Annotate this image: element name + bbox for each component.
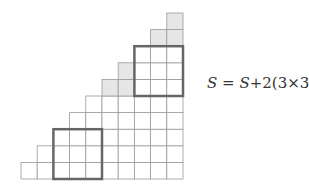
grid-cell: [134, 63, 150, 80]
grid-cell: [151, 162, 167, 179]
grid-cell: [134, 162, 150, 179]
formula-rhs-rest: +2(3×3): [250, 74, 309, 92]
grid-cell: [118, 146, 134, 163]
shaded-cell: [118, 63, 134, 80]
grid-cell: [118, 113, 134, 130]
grid-cell: [151, 113, 167, 130]
shaded-cell: [151, 30, 167, 47]
grid-cell: [134, 46, 150, 63]
grid-cell: [151, 129, 167, 146]
grid-cell: [134, 113, 150, 130]
grid-cell: [151, 63, 167, 80]
grid-cell: [151, 96, 167, 113]
shaded-cell: [102, 79, 118, 96]
grid-cell: [167, 96, 183, 113]
grid-cell: [167, 146, 183, 163]
grid-cell: [86, 96, 102, 113]
grid-cell: [102, 96, 118, 113]
grid-cell: [151, 79, 167, 96]
grid-cell: [70, 162, 86, 179]
grid-cell: [118, 129, 134, 146]
grid-cell: [167, 79, 183, 96]
grid-cell: [167, 63, 183, 80]
shaded-cell: [167, 13, 183, 30]
grid-cell: [53, 162, 69, 179]
grid-cell: [86, 129, 102, 146]
grid-cell: [21, 162, 37, 179]
formula-lhs: S: [207, 74, 217, 92]
staircase-grid-diagram: [0, 0, 309, 193]
grid-cell: [167, 162, 183, 179]
grid-cell: [70, 129, 86, 146]
formula-rhs-var: S: [239, 74, 249, 92]
grid-cell: [102, 129, 118, 146]
grid-cell: [134, 129, 150, 146]
grid-cell: [70, 113, 86, 130]
grid-cell: [134, 146, 150, 163]
grid-cell: [37, 162, 53, 179]
grid-cell: [102, 113, 118, 130]
shaded-cell: [118, 79, 134, 96]
grid-cell: [118, 96, 134, 113]
grid-cell: [151, 46, 167, 63]
grid-cell: [167, 46, 183, 63]
grid-cell: [167, 129, 183, 146]
formula-equals: =: [217, 74, 239, 92]
grid-cell: [53, 146, 69, 163]
grid-cell: [151, 146, 167, 163]
grid-cell: [86, 162, 102, 179]
grid-cell: [134, 96, 150, 113]
grid-cell: [102, 162, 118, 179]
grid-cell: [86, 113, 102, 130]
area-formula: S = S+2(3×3): [207, 74, 309, 92]
grid-cell: [53, 129, 69, 146]
grid-cell: [86, 146, 102, 163]
grid-cell: [37, 146, 53, 163]
grid-cell: [134, 79, 150, 96]
grid-cell: [70, 146, 86, 163]
shaded-cell: [167, 30, 183, 47]
grid-cell: [118, 162, 134, 179]
grid-cell: [102, 146, 118, 163]
grid-cell: [167, 113, 183, 130]
